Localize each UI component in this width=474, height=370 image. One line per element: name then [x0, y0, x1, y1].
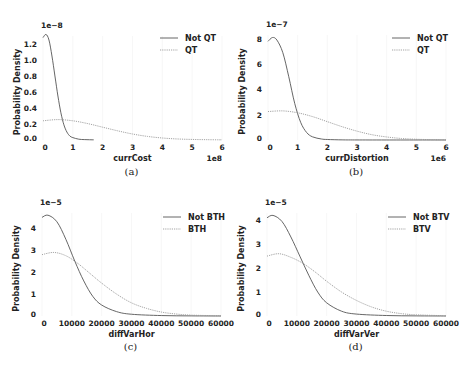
x-tick-label: 0	[266, 319, 271, 328]
y-tick-label: 1.2	[24, 40, 37, 49]
legend-label: Not BTH	[188, 213, 225, 222]
y-tick-label: 0	[257, 134, 262, 143]
x-tick-label: 4	[160, 143, 165, 152]
x-tick-label: 4	[384, 143, 389, 152]
y-tick-label: 0.0	[24, 134, 37, 143]
x-tick-label: 30000	[343, 319, 369, 328]
y-tick-label: 6	[257, 60, 262, 69]
figure: 01234560.00.20.40.60.81.01.21e−81e8currC…	[0, 0, 474, 370]
chart-panel-d: 0100002000030000400005000060000012341e−5…	[237, 198, 459, 352]
y-tick-label: 0.2	[24, 120, 37, 129]
y-tick-label: 3	[256, 240, 261, 249]
y-tick-label: 4	[31, 224, 36, 233]
x-tick-label: 40000	[148, 319, 174, 328]
y-axis-label: Probability Density	[12, 224, 21, 311]
x-tick-label: 50000	[403, 319, 429, 328]
y-tick-label: 0	[31, 310, 36, 319]
legend: Not QTQT	[160, 34, 217, 55]
y-scale-label: 1e−8	[41, 21, 63, 30]
x-tick-label: 6	[219, 143, 224, 152]
x-axis-label: diffVarVer	[334, 330, 379, 339]
x-scale-label: 1e8	[206, 154, 222, 163]
x-tick-label: 5	[190, 143, 195, 152]
legend-label: BTV	[413, 225, 432, 234]
y-tick-label: 2	[256, 264, 261, 273]
panel-caption: (b)	[349, 166, 363, 177]
x-tick-label: 0	[41, 319, 46, 328]
x-tick-label: 1	[70, 143, 75, 152]
legend-label: Not QT	[185, 34, 217, 43]
x-tick-label: 10000	[59, 319, 85, 328]
y-tick-label: 4	[256, 216, 261, 225]
y-axis-label: Probability Density	[238, 47, 247, 134]
x-tick-label: 0	[267, 143, 272, 152]
series-line-not-qt	[43, 34, 94, 139]
x-tick-label: 5	[414, 143, 419, 152]
x-tick-label: 20000	[89, 319, 115, 328]
panel-caption: (c)	[124, 341, 138, 352]
legend-label: QT	[417, 46, 430, 55]
x-tick-label: 0	[42, 143, 47, 152]
y-axis-label: Probability Density	[13, 48, 22, 135]
legend-label: BTH	[188, 225, 206, 234]
y-tick-label: 0.6	[24, 88, 37, 97]
y-scale-label: 1e−5	[265, 198, 287, 207]
x-tick-label: 6	[443, 143, 448, 152]
y-tick-label: 2	[31, 268, 36, 277]
y-tick-label: 1	[256, 288, 261, 297]
x-axis-label: currDistortion	[325, 154, 389, 163]
x-tick-label: 40000	[373, 319, 399, 328]
x-tick-label: 3	[354, 143, 359, 152]
legend: Not BTVBTV	[388, 213, 450, 234]
legend: Not BTHBTH	[163, 213, 225, 234]
y-tick-label: 1	[31, 290, 36, 299]
x-tick-label: 2	[100, 143, 105, 152]
x-tick-label: 10000	[284, 319, 310, 328]
legend-label: Not BTV	[413, 213, 450, 222]
y-tick-label: 3	[31, 246, 36, 255]
chart-panel-b: 0123456024681e−71e6currDistortionProbabi…	[238, 20, 449, 177]
panel-caption: (d)	[348, 341, 362, 352]
y-tick-label: 0	[256, 310, 261, 319]
x-tick-label: 60000	[208, 319, 234, 328]
x-tick-label: 1	[295, 143, 300, 152]
y-axis-label: Probability Density	[237, 224, 246, 311]
y-tick-label: 4	[257, 85, 262, 94]
legend-label: QT	[185, 46, 198, 55]
x-tick-label: 30000	[118, 319, 144, 328]
x-scale-label: 1e6	[430, 154, 446, 163]
legend: Not QTQT	[392, 34, 449, 55]
x-axis-label: diffVarHor	[108, 330, 154, 339]
x-axis-label: currCost	[113, 154, 151, 163]
y-tick-label: 0.4	[24, 104, 37, 113]
x-tick-label: 2	[325, 143, 330, 152]
x-tick-label: 60000	[433, 319, 459, 328]
chart-panel-a: 01234560.00.20.40.60.81.01.21e−81e8currC…	[13, 21, 225, 177]
y-tick-label: 8	[257, 35, 262, 44]
x-tick-label: 20000	[314, 319, 340, 328]
x-tick-label: 3	[130, 143, 135, 152]
chart-panel-c: 0100002000030000400005000060000012341e−5…	[12, 198, 234, 352]
y-scale-label: 1e−5	[40, 198, 62, 207]
panel-caption: (a)	[125, 166, 139, 177]
legend-label: Not QT	[417, 34, 449, 43]
x-tick-label: 50000	[178, 319, 204, 328]
y-tick-label: 1.0	[24, 56, 37, 65]
y-tick-label: 0.8	[24, 72, 37, 81]
y-tick-label: 2	[257, 111, 262, 120]
y-scale-label: 1e−7	[266, 20, 288, 29]
